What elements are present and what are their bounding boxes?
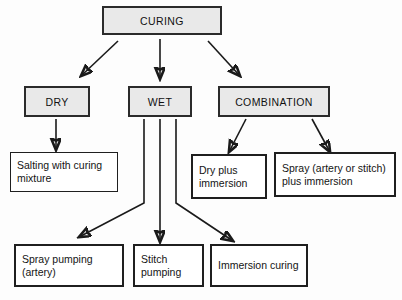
flowchart-canvas: CURING DRY WET COMBINATION Salting with …	[0, 0, 402, 300]
node-dry-label: DRY	[45, 96, 68, 108]
node-wet[interactable]: WET	[128, 86, 192, 117]
node-spray-plus-immersion[interactable]: Spray (artery or stitch) plus immersion	[274, 152, 396, 197]
edge-combination-dryplus	[229, 119, 246, 152]
node-combination[interactable]: COMBINATION	[218, 86, 330, 117]
node-immersion-curing[interactable]: Immersion curing	[210, 244, 308, 287]
node-spray-pumping[interactable]: Spray pumping (artery)	[14, 244, 124, 287]
node-dry-plus-immersion[interactable]: Dry plus immersion	[191, 154, 267, 199]
node-spray-plus-immersion-label: Spray (artery or stitch) plus immersion	[276, 162, 394, 188]
node-stitch-pumping[interactable]: Stitch pumping	[133, 244, 204, 287]
node-salting[interactable]: Salting with curing mixture	[10, 152, 118, 192]
node-salting-label: Salting with curing mixture	[11, 159, 117, 185]
node-combination-label: COMBINATION	[235, 96, 313, 108]
node-wet-label: WET	[148, 96, 173, 108]
node-immersion-curing-label: Immersion curing	[212, 259, 303, 272]
node-stitch-pumping-label: Stitch pumping	[135, 253, 202, 279]
edge-curing-dry	[81, 41, 118, 76]
edge-combination-sprayplus	[312, 119, 330, 152]
node-curing[interactable]: CURING	[102, 6, 222, 35]
node-dry-plus-immersion-label: Dry plus immersion	[193, 164, 265, 190]
node-spray-pumping-label: Spray pumping (artery)	[16, 253, 122, 279]
node-curing-label: CURING	[140, 15, 184, 27]
node-dry[interactable]: DRY	[24, 86, 90, 117]
edge-curing-combination	[208, 41, 240, 76]
